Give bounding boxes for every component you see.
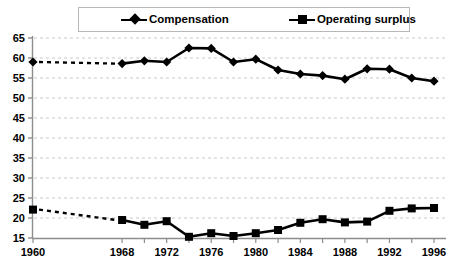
svg-text:25: 25 [13,192,25,204]
svg-text:30: 30 [13,172,25,184]
svg-text:1984: 1984 [288,246,313,258]
svg-text:55: 55 [13,72,25,84]
series-line-operating-surplus [29,204,438,241]
plot-area: 6560555045403530252015 19601968197219761… [0,0,453,265]
svg-text:1980: 1980 [244,246,268,258]
svg-text:65: 65 [13,32,25,44]
svg-text:1972: 1972 [154,246,178,258]
svg-text:1960: 1960 [21,246,45,258]
svg-text:1968: 1968 [110,246,134,258]
svg-text:20: 20 [13,212,25,224]
svg-text:1976: 1976 [199,246,223,258]
svg-text:35: 35 [13,152,25,164]
x-axis-labels: 196019681972197619801984198819921996 [21,246,446,258]
svg-text:15: 15 [13,232,25,244]
svg-text:60: 60 [13,52,25,64]
svg-text:1992: 1992 [377,246,401,258]
y-axis-labels: 6560555045403530252015 [13,32,25,244]
gridlines [34,38,446,218]
svg-text:45: 45 [13,112,25,124]
svg-text:40: 40 [13,132,25,144]
line-chart: Compensation Operating surplus 656055504… [0,0,453,265]
svg-text:1996: 1996 [422,246,446,258]
svg-text:50: 50 [13,92,25,104]
series-line-compensation [28,43,438,85]
svg-text:1988: 1988 [333,246,357,258]
